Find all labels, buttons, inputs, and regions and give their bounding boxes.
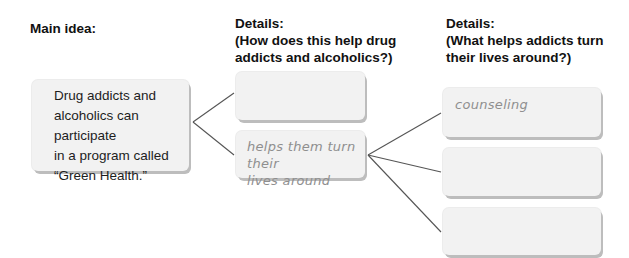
detail-line: helps them turn their — [247, 138, 365, 172]
connector-main-to-detail1 — [193, 93, 234, 122]
main-idea-text: Drug addicts and alcoholics can particip… — [54, 86, 189, 186]
main-idea-line: in a program called — [54, 146, 189, 166]
connector-detail2-to-sub2 — [368, 155, 441, 172]
connector-detail2-to-sub3 — [368, 155, 441, 232]
detail-what-box-3[interactable] — [443, 208, 601, 255]
detail-how-box-2-text: helps them turn their lives around — [247, 138, 365, 189]
detail-line: lives around — [247, 172, 365, 189]
connector-main-to-detail2 — [193, 122, 234, 155]
main-idea-line: alcoholics can participate — [54, 106, 189, 146]
connector-detail2-to-sub1 — [368, 113, 441, 155]
main-idea-box[interactable]: Drug addicts and alcoholics can particip… — [32, 80, 189, 171]
detail-what-box-2[interactable] — [443, 148, 601, 196]
detail-line: counseling — [455, 96, 528, 113]
detail-how-box-2[interactable]: helps them turn their lives around — [236, 131, 365, 178]
detail-how-box-1[interactable] — [236, 72, 365, 120]
detail-what-box-1[interactable]: counseling — [443, 88, 601, 137]
main-idea-line: Drug addicts and — [54, 86, 189, 106]
main-idea-line: “Green Health.” — [54, 166, 189, 186]
detail-what-box-1-text: counseling — [455, 96, 528, 113]
